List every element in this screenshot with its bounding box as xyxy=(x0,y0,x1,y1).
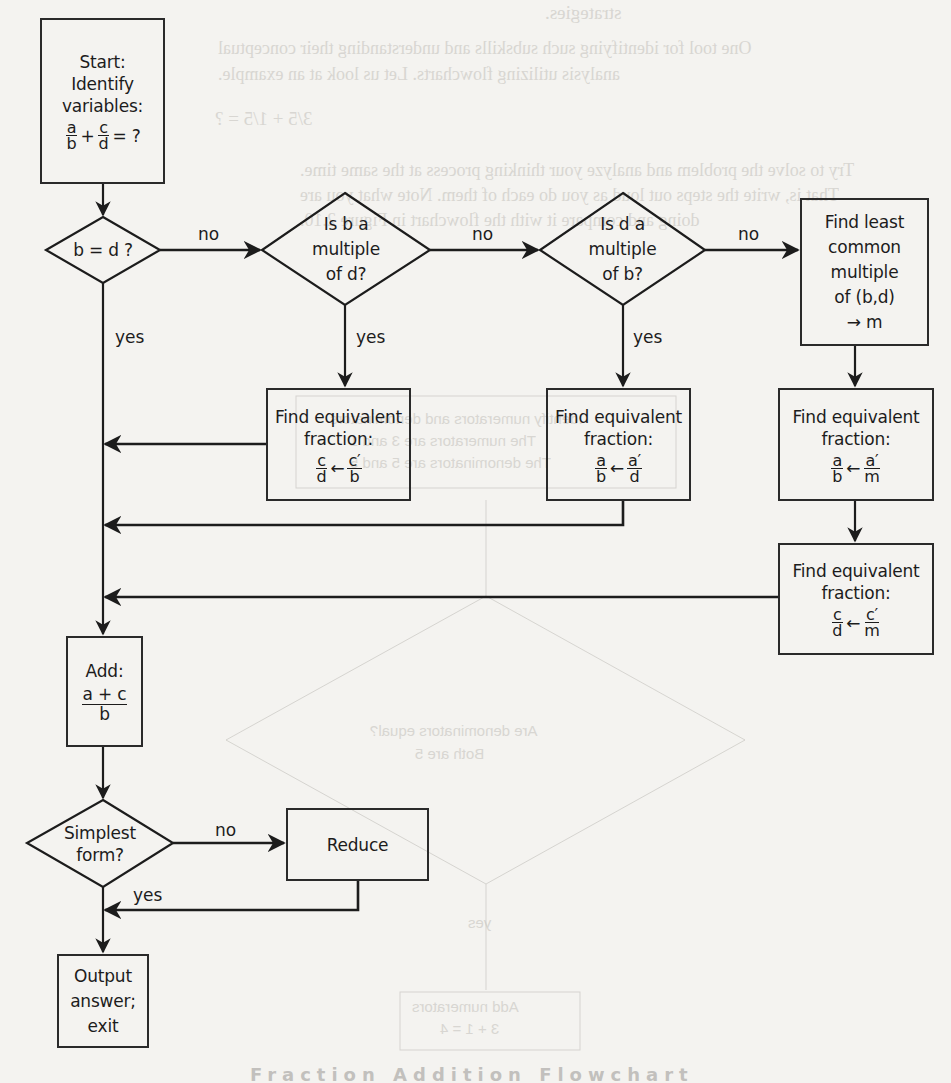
start-line-2: Identify xyxy=(71,73,134,95)
equiv-expression: cd ← c′b xyxy=(314,453,362,484)
edge-label-simplest-no: no xyxy=(215,821,236,839)
equiv-expression: cd ← c′m xyxy=(830,607,881,638)
fraction-a-b: ab xyxy=(65,120,77,151)
lcm-box: Find least common multiple of (b,d) → m xyxy=(800,198,929,346)
edge-label-b-mult-yes: yes xyxy=(356,328,385,346)
start-line-3: variables: xyxy=(62,95,143,117)
fraction-c-d: cd xyxy=(97,120,109,151)
left-arrow-icon: ← xyxy=(330,457,344,479)
equiv-box-a-over-m: Find equivalent fraction: ab ← a′m xyxy=(778,388,934,501)
edge-label-d-mult-no: no xyxy=(738,225,759,243)
left-arrow-icon: ← xyxy=(846,457,860,479)
edge-equiv-ad-to-trunk xyxy=(105,500,623,525)
edge-label-equal-yes: yes xyxy=(115,328,144,346)
edge-label-d-mult-yes: yes xyxy=(633,328,662,346)
edge-label-b-mult-no: no xyxy=(472,225,493,243)
decision-equal: b = d ? xyxy=(46,217,160,283)
decision-d-multiple-b: Is d a multiple of b? xyxy=(540,193,705,305)
decision-b-multiple-d: Is b a multiple of d? xyxy=(262,193,430,305)
equiv-box-c-over-b: Find equivalent fraction: cd ← c′b xyxy=(266,388,411,501)
output-box: Output answer; exit xyxy=(57,954,149,1048)
start-box: Start: Identify variables: ab + cd = ? xyxy=(40,18,165,184)
start-line-1: Start: xyxy=(79,51,125,73)
add-expression: a + cb xyxy=(81,685,129,724)
add-box: Add: a + cb xyxy=(66,636,143,747)
reduce-box: Reduce xyxy=(286,808,429,881)
left-arrow-icon: ← xyxy=(846,612,860,634)
start-equation: ab + cd = ? xyxy=(64,120,140,151)
equiv-expression: ab ← a′m xyxy=(830,453,881,484)
equiv-box-a-over-d: Find equivalent fraction: ab ← a′d xyxy=(546,388,691,501)
decision-simplest: Simplest form? xyxy=(27,800,173,887)
left-arrow-icon: ← xyxy=(610,457,624,479)
figure-caption: Fraction Addition Flowchart xyxy=(250,1064,694,1083)
edge-label-simplest-yes: yes xyxy=(133,886,162,904)
equiv-expression: ab ← a′d xyxy=(594,453,643,484)
edge-label-equal-no: no xyxy=(198,225,219,243)
equiv-box-c-over-m: Find equivalent fraction: cd ← c′m xyxy=(778,543,934,655)
